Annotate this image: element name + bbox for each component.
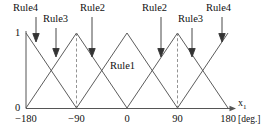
rule4-right-label: Rule4 — [206, 2, 231, 13]
rule1-label: Rule1 — [110, 60, 135, 71]
rule2-right-label: Rule2 — [142, 2, 167, 13]
rule4-left-arrow-head — [33, 34, 39, 43]
rule2-right-arrow-head — [158, 49, 164, 58]
rule3-left-label: Rule3 — [43, 13, 68, 24]
rule4-left-label: Rule4 — [13, 2, 38, 13]
rule3-right-arrow-head — [189, 49, 195, 58]
x-axis-unit-label: [deg.] — [238, 114, 260, 124]
x-tick-label-90: 90 — [168, 113, 187, 124]
rule3-left-arrow-head — [53, 49, 59, 58]
x-axis-label-subscript: 1 — [243, 103, 247, 111]
y-tick-label-1: 1 — [15, 27, 20, 38]
x-axis-arrowhead — [230, 106, 237, 111]
fuzzy-membership-figure: Rule4 Rule3 Rule2 Rule1 Rule2 Rule3 Rule… — [0, 0, 269, 135]
x-tick-label-minus90: −90 — [62, 113, 91, 124]
rule4-right-arrow-head — [219, 34, 225, 43]
rule3-right-label: Rule3 — [178, 13, 203, 24]
x-tick-label-zero: 0 — [120, 113, 134, 124]
y-tick-label-0: 0 — [15, 102, 20, 113]
rule2-left-label: Rule2 — [80, 2, 105, 13]
x-tick-label-minus180: −180 — [9, 113, 43, 124]
x-axis-label: x1 — [238, 98, 247, 111]
